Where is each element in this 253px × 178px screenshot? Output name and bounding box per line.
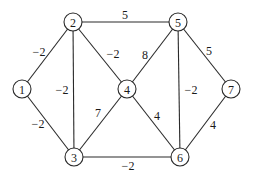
node-5: 5	[169, 13, 187, 31]
node-4: 4	[118, 80, 136, 98]
edge-5-6	[178, 22, 180, 157]
edge-weight-6-7: 4	[210, 118, 216, 132]
edge-5-7	[178, 22, 231, 89]
edge-weight-5-7: 5	[206, 44, 212, 58]
node-1: 1	[13, 80, 31, 98]
node-label: 5	[175, 16, 181, 30]
edge-weight-2-5: 5	[122, 8, 128, 22]
edge-4-6	[127, 89, 180, 157]
node-6: 6	[171, 148, 189, 166]
node-2: 2	[64, 13, 82, 31]
edge-weight-1-2: −2	[33, 45, 46, 59]
edge-6-7	[180, 89, 231, 157]
node-label: 1	[19, 83, 25, 97]
edge-1-3	[22, 89, 74, 157]
node-7: 7	[222, 80, 240, 98]
edge-3-4	[74, 89, 127, 157]
node-3: 3	[65, 148, 83, 166]
node-label: 2	[70, 16, 76, 30]
node-label: 3	[71, 151, 77, 165]
edge-weight-5-6: −2	[185, 83, 198, 97]
edge-weight-4-5: 8	[142, 48, 148, 62]
node-label: 4	[124, 83, 130, 97]
node-label: 6	[177, 151, 183, 165]
node-label: 7	[228, 83, 234, 97]
edge-weight-1-3: −2	[32, 117, 45, 131]
edge-weight-2-3: −2	[56, 83, 69, 97]
edge-weight-2-4: −2	[107, 47, 120, 61]
edge-weight-3-4: 7	[95, 106, 101, 120]
edge-weight-4-6: 4	[154, 109, 160, 123]
edge-1-2	[22, 22, 73, 89]
nodes-layer: 1234567	[13, 13, 240, 166]
edge-weight-3-6: −2	[122, 159, 135, 173]
graph-diagram: −2−2−2−257−284−254 1234567	[0, 0, 253, 178]
edge-2-3	[73, 22, 74, 157]
edge-4-5	[127, 22, 178, 89]
